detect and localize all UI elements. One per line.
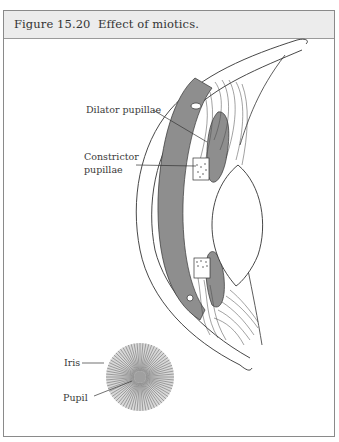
eye-diagram bbox=[0, 0, 339, 442]
ciliary-striations-lower bbox=[198, 278, 258, 345]
dilator-pupillae-label: Dilator pupillae bbox=[86, 104, 161, 116]
iris-disc bbox=[106, 343, 174, 411]
canal-upper bbox=[191, 103, 201, 109]
iris-label: Iris bbox=[64, 357, 80, 369]
constrictor-pupillae-label-line1: Constrictor bbox=[84, 151, 139, 163]
constrictor-upper bbox=[193, 158, 209, 180]
canal-lower bbox=[187, 295, 193, 301]
iris-inner-upper bbox=[207, 112, 229, 182]
constrictor-leader bbox=[136, 165, 196, 166]
constrictor-pupillae-label-line2: pupillae bbox=[84, 164, 123, 176]
constrictor-lower bbox=[194, 258, 210, 278]
pupil-label: Pupil bbox=[63, 392, 88, 404]
